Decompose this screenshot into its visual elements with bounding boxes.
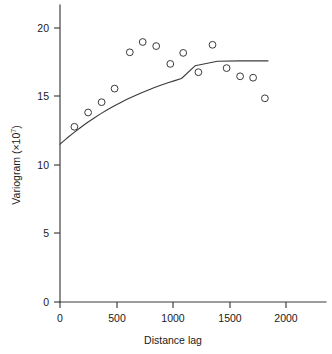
variogram-chart-svg: 0 5 10 15 20 0 500 1000 1500 2000 Distan… [0, 0, 332, 354]
y-axis-tick-labels: 0 5 10 15 20 [37, 22, 49, 308]
data-point [71, 123, 78, 130]
data-point [85, 109, 92, 116]
data-point [209, 41, 216, 48]
y-axis-title: Variogram (×107) [10, 125, 22, 204]
y-tick-label-0: 0 [43, 296, 49, 308]
svg-text:Variogram (×107): Variogram (×107) [10, 125, 22, 204]
y-tick-label-10: 10 [37, 159, 49, 171]
data-point [180, 50, 187, 57]
data-point [153, 43, 160, 50]
y-axis-title-close: ) [10, 125, 22, 129]
data-point [126, 49, 133, 56]
y-tick-label-5: 5 [43, 227, 49, 239]
y-tick-label-20: 20 [37, 22, 49, 34]
x-tick-label-0: 0 [57, 312, 63, 324]
x-axis-title: Distance lag [144, 334, 202, 346]
data-point [223, 65, 230, 72]
data-point-group [71, 39, 268, 131]
x-tick-label-500: 500 [108, 312, 126, 324]
data-point [98, 99, 105, 106]
data-point [250, 74, 257, 81]
y-axis-title-base: Variogram (×10 [10, 133, 22, 205]
variogram-figure: 0 5 10 15 20 0 500 1000 1500 2000 Distan… [0, 0, 332, 354]
x-axis-ticks [60, 302, 286, 308]
x-tick-label-1000: 1000 [161, 312, 185, 324]
data-point [111, 85, 118, 92]
fitted-model-curve [60, 61, 268, 144]
data-point [262, 95, 269, 102]
data-point [237, 73, 244, 80]
y-axis-ticks [54, 28, 60, 302]
x-tick-label-1500: 1500 [218, 312, 242, 324]
data-point [195, 69, 202, 76]
data-point [167, 61, 174, 68]
y-tick-label-15: 15 [37, 90, 49, 102]
x-tick-label-2000: 2000 [274, 312, 298, 324]
x-axis-tick-labels: 0 500 1000 1500 2000 [57, 312, 298, 324]
data-point [139, 39, 146, 46]
